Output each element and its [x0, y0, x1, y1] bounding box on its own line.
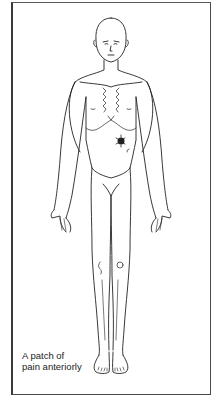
caption-line-1: A patch of — [22, 350, 82, 361]
pain-patch-marker — [116, 135, 125, 147]
caption-line-2: pain anteriorly — [22, 361, 82, 372]
head-icon — [94, 18, 129, 62]
body-outline-illustration — [0, 0, 222, 402]
feet-icon — [94, 352, 128, 374]
figure-caption: A patch of pain anteriorly — [22, 350, 82, 372]
